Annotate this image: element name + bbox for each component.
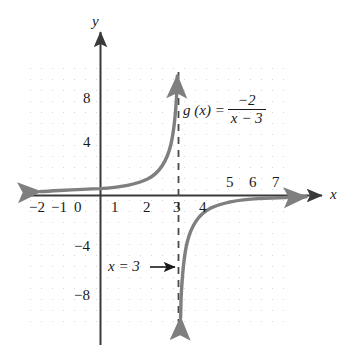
xtick-label-1: 1 [111,200,119,215]
ytick-label-neg4: −4 [74,239,90,254]
function-numerator: −2 [228,93,266,109]
y-axis-label: y [92,14,99,29]
asymptote-label: x = 3 [108,259,140,274]
ytick-label-8: 8 [83,91,91,106]
xtick-label-0: 0 [74,200,82,215]
xtick-label-7: 7 [272,175,280,190]
xtick-label-4: 4 [199,200,207,215]
curve-left-branch [40,76,177,192]
xtick-label-5: 5 [226,175,234,190]
function-formula-lhs: g (x) = [183,103,225,118]
rational-function-figure: y x −2 −1 0 1 2 3 4 5 6 7 8 4 −4 −8 g (x… [0,0,358,361]
xtick-label-neg2: −2 [29,200,45,215]
ytick-label-neg8: −8 [74,288,90,303]
xtick-label-6: 6 [249,175,257,190]
xtick-label-neg1: −1 [51,200,67,215]
function-formula-fraction: −2 x − 3 [228,93,266,126]
ytick-label-4: 4 [83,135,91,150]
function-formula: g (x) = −2 x − 3 [183,94,266,127]
xtick-label-3: 3 [173,200,181,215]
graph-vector-layer [0,0,358,361]
xtick-label-2: 2 [143,200,151,215]
function-denominator: x − 3 [228,109,266,126]
x-axis-label: x [330,187,337,202]
